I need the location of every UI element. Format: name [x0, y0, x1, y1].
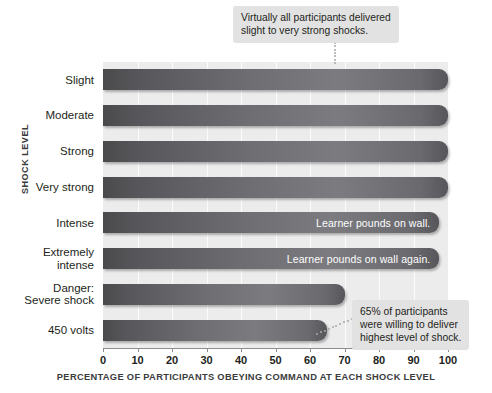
- bar-row: Learner pounds on wall again.: [103, 248, 448, 269]
- bar-danger-severe-shock: [103, 284, 345, 305]
- y-axis-label-5: Extremelyintense: [8, 246, 94, 271]
- y-axis-label-4: Intense: [8, 217, 94, 230]
- x-axis-title: PERCENTAGE OF PARTICIPANTS OBEYING COMMA…: [0, 372, 492, 382]
- x-tick-0: [103, 348, 104, 352]
- bar-intense: Learner pounds on wall.: [103, 212, 439, 233]
- bar-row: Learner pounds on wall.: [103, 212, 448, 233]
- bar-slight: [103, 69, 448, 90]
- learner-pounds-wall-again: Learner pounds on wall again.: [287, 253, 431, 265]
- y-axis-label-6: Danger:Severe shock: [8, 282, 94, 307]
- x-tick-20: [172, 348, 173, 352]
- y-axis-tick-labels: SlightModerateStrongVery strongIntenseEx…: [8, 62, 94, 348]
- learner-pounds-wall: Learner pounds on wall.: [316, 217, 430, 229]
- sixty-five-percent-callout: 65% of participantswere willing to deliv…: [352, 300, 469, 350]
- bar-row: [103, 105, 448, 126]
- x-tick-50: [276, 348, 277, 352]
- bar-row: [103, 141, 448, 162]
- virtually-all-callout: Virtually all participants deliveredslig…: [233, 6, 399, 43]
- y-axis-label-0: Slight: [8, 74, 94, 87]
- bar-chart: SHOCK LEVEL SlightModerateStrongVery str…: [0, 0, 492, 393]
- x-tick-30: [207, 348, 208, 352]
- y-axis-label-3: Very strong: [8, 181, 94, 194]
- y-axis-label-1: Moderate: [8, 109, 94, 122]
- bar-moderate: [103, 105, 448, 126]
- x-tick-70: [345, 348, 346, 352]
- x-tick-10: [138, 348, 139, 352]
- x-tick-60: [310, 348, 311, 352]
- bar-row: [103, 69, 448, 90]
- bar-row: [103, 177, 448, 198]
- x-tick-40: [241, 348, 242, 352]
- bar-extremely-intense: Learner pounds on wall again.: [103, 248, 439, 269]
- bar-450-volts: [103, 320, 327, 341]
- bar-very-strong: [103, 177, 448, 198]
- y-axis-label-2: Strong: [8, 145, 94, 158]
- y-axis-label-7: 450 volts: [8, 324, 94, 337]
- x-tick-label-100: 100: [428, 354, 468, 366]
- bar-strong: [103, 141, 448, 162]
